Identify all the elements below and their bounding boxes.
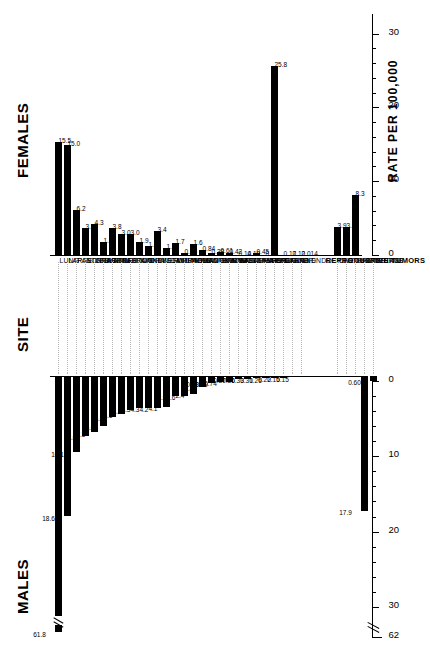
axis-tick-label: 30	[389, 598, 400, 609]
female-value-label: 8.3	[356, 189, 365, 196]
axis-tick-label: 30	[389, 25, 400, 36]
figure-stage: MALES SITE FEMALES 61.818.610.18.07.56.6…	[0, 0, 430, 652]
female-value-label: 6.2	[77, 205, 86, 212]
female-value-label: 1.6	[194, 239, 203, 246]
females-bar-panel: 15.515.06.23.84.31.93.83.03.01.91.43.41.…	[50, 14, 362, 256]
female-value-label: 15.0	[68, 140, 81, 147]
axis-tick-minor	[372, 577, 376, 578]
site-label: TESTIS	[375, 256, 400, 265]
site-leader-line	[67, 262, 68, 374]
female-bar	[73, 210, 80, 256]
bar-chart-figure: MALES SITE FEMALES 61.818.610.18.07.56.6…	[0, 0, 430, 652]
site-leader-line	[292, 262, 293, 374]
female-bar	[127, 234, 134, 256]
site-leader-line	[202, 262, 203, 374]
site-leader-line	[166, 262, 167, 374]
axis-tick-minor	[372, 501, 376, 502]
females-column-title: FEMALES	[14, 103, 31, 178]
site-leader-line	[103, 262, 104, 374]
site-leader-line	[175, 262, 176, 374]
axis-tick-minor	[372, 49, 376, 50]
site-leader-line	[220, 262, 221, 374]
axis-tick-minor	[372, 211, 376, 212]
female-bar	[82, 228, 89, 256]
axis-tick-major	[372, 532, 379, 533]
site-leader-line	[337, 262, 338, 374]
axis-tick-major	[372, 456, 379, 457]
axis-tick-minor	[372, 122, 376, 123]
site-leader-line	[157, 262, 158, 374]
axis-tick-minor	[372, 196, 376, 197]
females-axis-line	[372, 14, 373, 256]
axis-tick-minor	[372, 137, 376, 138]
female-value-label: 3.0	[131, 228, 140, 235]
axis-tick-minor	[372, 547, 376, 548]
axis-break-marker	[367, 620, 379, 630]
site-leader-line	[193, 262, 194, 374]
axis-tick-minor	[372, 471, 376, 472]
male-bar	[289, 376, 296, 377]
site-leader-line	[94, 262, 95, 374]
female-value-label: 1.7	[176, 238, 185, 245]
axis-tick-minor	[372, 517, 376, 518]
site-label: LIP	[303, 256, 314, 265]
site-leader-line	[238, 262, 239, 374]
site-leader-line	[211, 262, 212, 374]
axis-tick-minor	[372, 411, 376, 412]
male-bar	[298, 376, 305, 377]
female-bar	[154, 231, 161, 256]
male-value-label: 2.6	[166, 394, 175, 401]
female-bar	[100, 242, 107, 256]
female-bar	[343, 227, 350, 256]
female-bar	[55, 142, 62, 256]
males-bar-axis-break	[54, 616, 63, 625]
site-leader-line	[58, 262, 59, 374]
male-bar	[163, 376, 170, 407]
axis-tick-major	[372, 34, 379, 35]
site-leader-line	[283, 262, 284, 374]
male-value-label: 5.5	[94, 416, 103, 423]
female-value-label: 1.9	[140, 237, 149, 244]
female-bar	[136, 242, 143, 256]
site-column-title: SITE	[14, 317, 31, 352]
male-value-label: 10.1	[51, 451, 64, 458]
site-leader-line	[256, 262, 257, 374]
axis-tick-minor	[372, 63, 376, 64]
axis-tick-label: 10	[389, 448, 400, 459]
female-bar	[109, 228, 116, 256]
male-value-label: 0.60	[349, 379, 362, 386]
female-bar	[271, 66, 278, 256]
axis-tick-minor	[372, 486, 376, 487]
axis-tick-minor	[372, 396, 376, 397]
male-value-label: 4.1	[148, 405, 157, 412]
site-leader-line	[76, 262, 77, 374]
axis-tick-major	[372, 181, 379, 182]
male-bar	[55, 376, 62, 632]
male-value-label: 5.1	[103, 413, 112, 420]
site-leader-line	[130, 262, 131, 374]
male-bar	[145, 376, 152, 408]
male-bar	[136, 376, 143, 408]
site-leader-line	[112, 262, 113, 374]
axis-tick-major	[372, 255, 379, 256]
site-leader-line	[139, 262, 140, 374]
female-bar	[190, 244, 197, 256]
axis-tick-minor	[372, 441, 376, 442]
male-value-label: 4.3	[121, 407, 130, 414]
axis-tick-major	[372, 607, 379, 608]
male-value-label: 61.8	[33, 631, 46, 638]
male-value-label: 4.2	[139, 406, 148, 413]
site-leader-line	[85, 262, 86, 374]
female-value-label: 0.014	[302, 249, 318, 256]
male-value-label: 2.6	[157, 394, 166, 401]
axis-tick-major	[372, 108, 379, 109]
male-bar	[361, 376, 368, 511]
female-bar	[91, 224, 98, 256]
female-bar	[118, 234, 125, 256]
male-value-label: 4.5	[112, 408, 121, 415]
axis-tick-minor	[372, 167, 376, 168]
axis-tick-label: 62	[389, 629, 400, 640]
site-leader-line	[346, 262, 347, 374]
site-leader-line	[229, 262, 230, 374]
male-value-label: 7.5	[76, 431, 85, 438]
